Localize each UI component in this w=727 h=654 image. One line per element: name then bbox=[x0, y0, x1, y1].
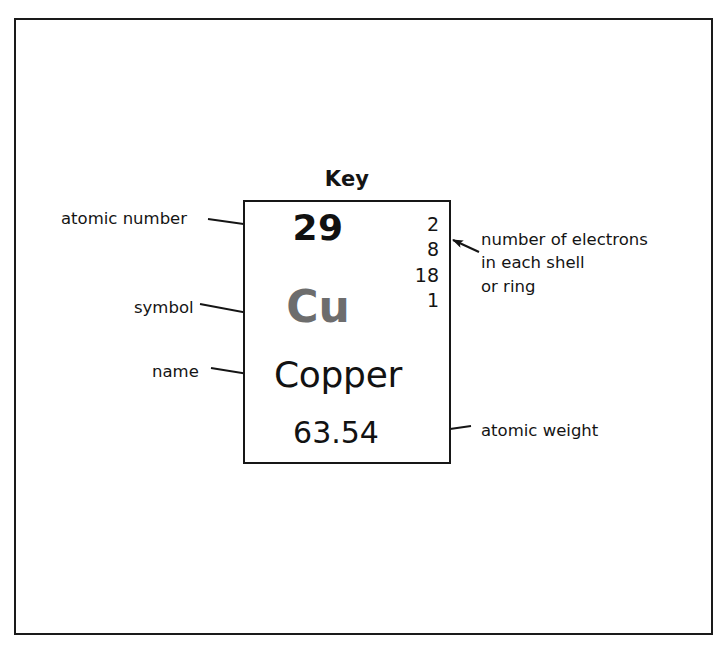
figure-canvas: Key 29 2 8 18 1 Cu Copper 63.54 atomic n… bbox=[0, 0, 727, 654]
atomic-weight-value: 63.54 bbox=[243, 418, 451, 448]
shell-count-3: 18 bbox=[355, 263, 439, 288]
shell-count-1: 2 bbox=[355, 212, 439, 237]
callout-label-symbol: symbol bbox=[134, 296, 194, 319]
key-title: Key bbox=[243, 167, 451, 191]
callout-label-atomic-number: atomic number bbox=[61, 207, 187, 230]
callout-label-atomic-weight: atomic weight bbox=[481, 419, 598, 442]
callout-label-electrons: number of electrons in each shell or rin… bbox=[481, 228, 648, 298]
shell-count-2: 8 bbox=[355, 237, 439, 262]
element-name-value: Copper bbox=[243, 357, 451, 393]
callout-label-name: name bbox=[152, 360, 199, 383]
element-symbol-value: Cu bbox=[243, 285, 393, 329]
